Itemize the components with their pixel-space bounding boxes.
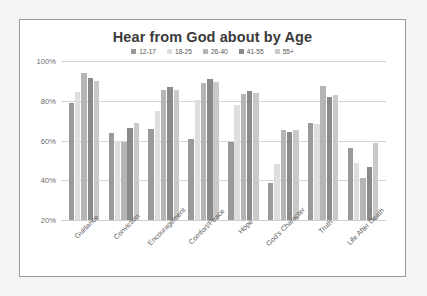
bar (134, 123, 139, 220)
legend-item-label: 18-25 (175, 48, 192, 55)
bar (109, 133, 114, 220)
bar (367, 167, 372, 220)
bar (274, 164, 279, 220)
bar (234, 105, 239, 220)
x-axis-label-slot: Life After Death (343, 222, 383, 276)
bar (308, 123, 313, 220)
bar (94, 81, 99, 220)
chart-card: Hear from God about by Age 12-1718-2526-… (19, 19, 406, 277)
bar (228, 142, 233, 221)
bar (348, 148, 353, 220)
legend-item-41-55[interactable]: 41-55 (239, 48, 264, 55)
bar (320, 86, 325, 220)
bar (354, 163, 359, 220)
bar (75, 92, 80, 220)
legend-item-26-40[interactable]: 26-40 (203, 48, 228, 55)
bar-group (144, 61, 184, 220)
bar-group (104, 61, 144, 220)
bar (69, 103, 74, 220)
y-axis-tick-label: 100% (37, 57, 56, 66)
bar (148, 129, 153, 220)
bar (195, 100, 200, 220)
bar (167, 87, 172, 220)
x-axis-label-slot: God's Character (263, 222, 303, 276)
bar (174, 90, 179, 220)
bar (333, 95, 338, 220)
legend-swatch-icon (239, 49, 244, 54)
legend-item-label: 41-55 (247, 48, 264, 55)
x-axis-line (61, 220, 386, 221)
x-axis-label-slot: Truth (303, 222, 343, 276)
legend-item-18-25[interactable]: 18-25 (167, 48, 192, 55)
bar (127, 128, 132, 220)
bar (81, 73, 86, 220)
x-axis-labels: GuidanceConvictionEncouragementComfort/P… (61, 222, 386, 276)
bar-group (263, 61, 303, 220)
x-axis-label-slot: Guidance (64, 222, 104, 276)
bar (293, 130, 298, 220)
legend-swatch-icon (203, 49, 208, 54)
bar-groups (61, 61, 386, 220)
bar-group (303, 61, 343, 220)
bar (253, 93, 258, 220)
legend-item-label: 12-17 (139, 48, 156, 55)
bar (155, 111, 160, 220)
bar (314, 124, 319, 220)
bar-group (224, 61, 264, 220)
bar (121, 142, 126, 221)
legend-item-label: 26-40 (211, 48, 228, 55)
bar (268, 183, 273, 220)
chart-title: Hear from God about by Age (20, 29, 405, 45)
x-axis-label-slot: Encouragement (144, 222, 184, 276)
bar-group (184, 61, 224, 220)
legend-item-label: 55+ (283, 48, 294, 55)
y-axis-tick-label: 60% (41, 136, 56, 145)
plot-area: 100%80%60%40%20% (61, 61, 386, 220)
legend-item-12-17[interactable]: 12-17 (131, 48, 156, 55)
bar (188, 139, 193, 220)
bar (115, 141, 120, 221)
chart-legend: 12-1718-2526-4041-5555+ (20, 48, 405, 55)
bar (201, 83, 206, 220)
bar (88, 78, 93, 220)
bar-group (343, 61, 383, 220)
bar (207, 79, 212, 220)
bar-group (64, 61, 104, 220)
x-axis-label-slot: Hope (224, 222, 264, 276)
bar (241, 94, 246, 220)
bar (247, 91, 252, 220)
bar (360, 178, 365, 220)
bar (281, 130, 286, 220)
bar (327, 97, 332, 220)
x-axis-label-slot: Conviction (104, 222, 144, 276)
bar (213, 82, 218, 220)
bar (287, 132, 292, 220)
y-axis-tick-label: 40% (41, 176, 56, 185)
bar (161, 90, 166, 220)
legend-swatch-icon (275, 49, 280, 54)
legend-swatch-icon (131, 49, 136, 54)
x-axis-label-slot: Comfort/Peace (184, 222, 224, 276)
y-axis-tick-label: 20% (41, 216, 56, 225)
legend-item-55[interactable]: 55+ (275, 48, 294, 55)
legend-swatch-icon (167, 49, 172, 54)
y-axis-tick-label: 80% (41, 96, 56, 105)
